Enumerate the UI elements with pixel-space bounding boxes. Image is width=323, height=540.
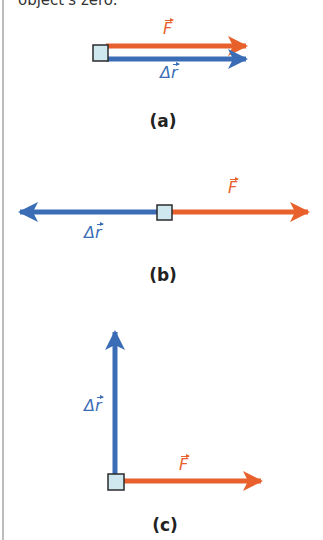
- caption-b: (b): [149, 265, 177, 285]
- displacement-label-b: Δr: [84, 223, 102, 242]
- panel-b: [20, 205, 308, 220]
- object-box: [93, 45, 108, 61]
- panel-a: [93, 45, 246, 61]
- displacement-label-a: Δr: [160, 63, 178, 82]
- caption-a: (a): [149, 111, 176, 131]
- force-label-c: F: [179, 455, 188, 474]
- displacement-label-c: Δr: [84, 396, 102, 415]
- force-label-b: F: [228, 178, 237, 197]
- force-label-a: F: [163, 19, 172, 38]
- object-box: [108, 474, 124, 490]
- caption-c: (c): [152, 515, 178, 535]
- object-box: [157, 205, 172, 220]
